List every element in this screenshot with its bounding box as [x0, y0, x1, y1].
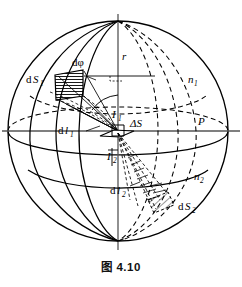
- label-n2-sub: 2: [200, 176, 204, 185]
- label-dl2-prefix: d: [110, 184, 116, 196]
- label-d-phi: dφ: [72, 56, 84, 68]
- label-point-P: P: [197, 115, 205, 127]
- label-I1-sub: 1: [118, 114, 122, 123]
- label-dS2: d S 2: [178, 200, 196, 215]
- label-dS2-prefix: d: [178, 200, 184, 212]
- label-dl1-main: l: [65, 124, 68, 136]
- label-delta-S: ΔS: [129, 117, 142, 129]
- label-I2: I 2: [106, 150, 117, 165]
- label-dl1-sub: 1: [70, 130, 74, 139]
- figure-caption: 图 4.10: [0, 258, 242, 274]
- label-n1-sub: 1: [194, 79, 198, 88]
- d-phi-reference: [84, 76, 155, 81]
- label-dl1-prefix: d: [58, 124, 64, 136]
- patch-dS2: [148, 192, 174, 213]
- sphere-diagram: r dφ d S 1 I 1 ΔS d l 1 I 2 d l: [0, 0, 242, 287]
- label-dS2-sub: 2: [192, 206, 196, 215]
- label-dS1: d S 1: [26, 73, 44, 88]
- label-dS1-main: S: [33, 73, 39, 85]
- label-dl1: d l 1: [58, 124, 74, 139]
- label-n2: n 2: [194, 170, 204, 185]
- label-dS2-main: S: [185, 200, 191, 212]
- label-n1: n 1: [188, 73, 198, 88]
- label-radius: r: [122, 50, 127, 62]
- refracted-bundle-hatch: [128, 154, 166, 200]
- label-dS1-prefix: d: [26, 73, 32, 85]
- dl1-leader: [86, 126, 100, 131]
- label-dS1-sub: 1: [40, 79, 44, 88]
- label-dl2-main: l: [117, 184, 120, 196]
- label-I2-main: I: [106, 150, 112, 162]
- label-dl2-sub: 2: [122, 190, 126, 199]
- label-I2-sub: 2: [113, 156, 117, 165]
- figure-container: r dφ d S 1 I 1 ΔS d l 1 I 2 d l: [0, 0, 242, 287]
